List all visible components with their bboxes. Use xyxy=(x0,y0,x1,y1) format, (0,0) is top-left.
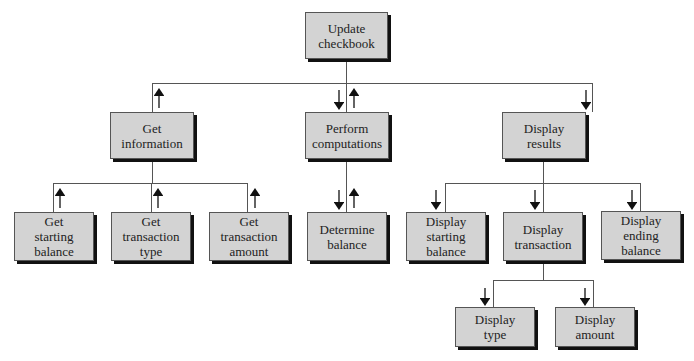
node-label: Perform xyxy=(312,121,382,136)
node-label: checkbook xyxy=(318,36,374,51)
node-label: Get xyxy=(220,214,277,229)
node-determine-balance: Determinebalance xyxy=(307,212,387,261)
node-label: balance xyxy=(426,244,466,259)
node-label: Display xyxy=(426,214,466,229)
node-label: balance xyxy=(320,237,375,252)
node-display-type: Displaytype xyxy=(455,307,535,347)
node-label: results xyxy=(524,136,564,151)
node-label: ending xyxy=(621,228,661,243)
node-label: balance xyxy=(34,244,74,259)
node-label: type xyxy=(122,244,179,259)
node-label: Get xyxy=(34,214,74,229)
node-label: starting xyxy=(426,229,466,244)
node-label: type xyxy=(475,327,515,342)
node-label: computations xyxy=(312,136,382,151)
node-label: transaction xyxy=(514,237,571,252)
node-label: Determine xyxy=(320,222,375,237)
node-display-starting-balance: Displaystartingbalance xyxy=(406,212,486,261)
node-label: Get xyxy=(121,121,182,136)
node-label: Display xyxy=(575,312,615,327)
node-label: information xyxy=(121,136,182,151)
node-get-starting-balance: Getstartingbalance xyxy=(14,212,94,261)
node-display-ending-balance: Displayendingbalance xyxy=(601,211,681,260)
node-display-transaction: Displaytransaction xyxy=(503,212,583,261)
node-get-transaction-amount: Gettransactionamount xyxy=(209,212,289,261)
node-label: starting xyxy=(34,229,74,244)
node-label: transaction xyxy=(122,229,179,244)
node-label: Get xyxy=(122,214,179,229)
node-display-amount: Displayamount xyxy=(555,307,635,347)
node-label: Display xyxy=(514,222,571,237)
node-display-results: Displayresults xyxy=(502,112,586,159)
node-get-transaction-type: Gettransactiontype xyxy=(111,212,191,261)
node-label: Update xyxy=(318,21,374,36)
node-label: balance xyxy=(621,243,661,258)
node-label: amount xyxy=(575,327,615,342)
node-get-information: Getinformation xyxy=(110,112,194,159)
node-perform-computations: Performcomputations xyxy=(305,112,389,159)
node-label: Display xyxy=(524,121,564,136)
node-label: amount xyxy=(220,244,277,259)
node-label: Display xyxy=(475,312,515,327)
node-label: transaction xyxy=(220,229,277,244)
node-update-checkbook: Updatecheckbook xyxy=(305,12,388,59)
node-label: Display xyxy=(621,213,661,228)
